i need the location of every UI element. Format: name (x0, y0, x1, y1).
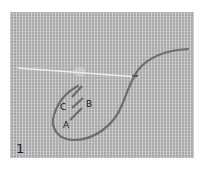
stitch-1 (70, 108, 82, 120)
needle-eye (132, 75, 138, 78)
step-number: 1 (16, 142, 24, 155)
label-b: B (86, 100, 92, 109)
stitch-2 (72, 98, 83, 108)
embroidery-illustration (0, 0, 202, 169)
label-a: A (63, 121, 69, 130)
label-c: C (60, 103, 66, 112)
